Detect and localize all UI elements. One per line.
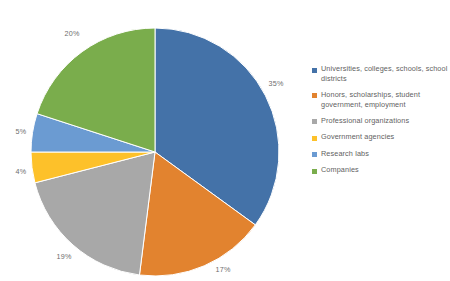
legend-item[interactable]: Honors, scholarships, student government… — [312, 90, 448, 110]
legend-item-label: Companies — [321, 165, 359, 175]
slice-percentage-label: 4% — [16, 167, 27, 176]
legend-swatch-icon — [312, 68, 317, 73]
legend-item-label: Government agencies — [321, 132, 394, 142]
legend-item-label: Honors, scholarships, student government… — [321, 90, 448, 110]
pie-plot-area: 35%17%19%4%5%20% — [0, 0, 310, 281]
legend-item[interactable]: Research labs — [312, 149, 448, 160]
legend-item-label: Universities, colleges, schools, school … — [321, 64, 448, 84]
legend-item[interactable]: Companies — [312, 165, 448, 176]
slice-percentage-label: 5% — [16, 127, 27, 136]
legend-item[interactable]: Universities, colleges, schools, school … — [312, 64, 448, 84]
legend: Universities, colleges, schools, school … — [312, 64, 448, 182]
legend-swatch-icon — [312, 169, 317, 174]
legend-swatch-icon — [312, 152, 317, 157]
slice-percentage-label: 19% — [57, 252, 72, 261]
legend-item-label: Professional organizations — [321, 116, 409, 126]
legend-swatch-icon — [312, 136, 317, 141]
legend-swatch-icon — [312, 119, 317, 124]
slice-percentage-label: 20% — [65, 29, 80, 38]
pie-chart: 35%17%19%4%5%20% Universities, colleges,… — [0, 0, 450, 281]
legend-swatch-icon — [312, 93, 317, 98]
slice-percentage-label: 35% — [269, 79, 284, 88]
legend-item[interactable]: Professional organizations — [312, 116, 448, 127]
pie-svg — [0, 0, 310, 281]
legend-item[interactable]: Government agencies — [312, 132, 448, 143]
slice-percentage-label: 17% — [216, 265, 231, 274]
legend-item-label: Research labs — [321, 149, 369, 159]
